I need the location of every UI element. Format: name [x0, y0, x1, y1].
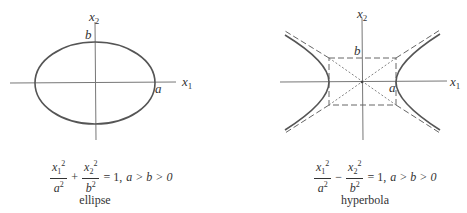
asymptote-lr [396, 105, 440, 133]
hyperbola-x2-axis [362, 18, 363, 140]
hyperbola-caption: hyperbola [330, 193, 400, 208]
hyperbola-x2-label: x2 [356, 6, 367, 23]
asymptote-ul [285, 31, 329, 58]
hyperbola-left-branch [285, 35, 329, 130]
ellipse-b-label: b [85, 27, 92, 42]
hyperbola-term2: x22 b2 [346, 160, 363, 194]
ellipse-term2: x22 b2 [82, 160, 99, 194]
ellipse-operator: + [71, 170, 78, 185]
hyperbola-a-label: a [389, 80, 396, 95]
ellipse-x2-axis [95, 22, 96, 140]
ellipse-condition: a > b > 0 [126, 170, 172, 185]
hyperbola-center-dot [361, 81, 364, 84]
hyperbola-right-branch [396, 34, 440, 130]
asymptote-ll [285, 105, 329, 133]
hyperbola-equation: x12 a2 − x22 b2 = 1, a > b > 0 [314, 160, 436, 194]
ellipse-caption: ellipse [70, 193, 120, 208]
hyperbola-term1: x12 a2 [314, 160, 331, 194]
asymptote-ur [396, 30, 440, 58]
hyperbola-operator: − [335, 170, 342, 185]
ellipse-x1-label: x1 [181, 74, 192, 91]
hyperbola-b-label: b [354, 43, 361, 58]
hyperbola-figure: x2 b a x1 [280, 6, 460, 140]
ellipse-x2-label: x2 [88, 9, 99, 26]
hyperbola-condition: a > b > 0 [390, 170, 436, 185]
ellipse-figure: x2 b a x1 [10, 9, 192, 140]
ellipse-term1: x12 a2 [50, 160, 67, 194]
ellipse-rhs: = 1, [103, 170, 122, 185]
hyperbola-x1-label: x1 [449, 74, 460, 91]
hyperbola-rhs: = 1, [367, 170, 386, 185]
ellipse-a-label: a [155, 81, 162, 96]
ellipse-equation: x12 a2 + x22 b2 = 1, a > b > 0 [50, 160, 172, 194]
